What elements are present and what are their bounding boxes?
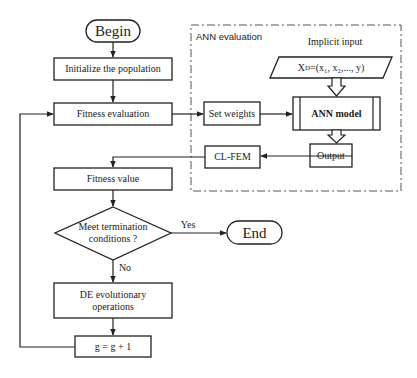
set-weights-label: Set weights xyxy=(204,102,260,125)
end-label: End xyxy=(227,221,282,244)
init-label: Initialize the population xyxy=(54,58,172,80)
input-x: X xyxy=(298,62,305,74)
block-arrow-input xyxy=(328,78,345,96)
de-ops-line1: DE evolutionary xyxy=(80,289,146,301)
fitness-eval-label: Fitness evaluation xyxy=(54,103,172,125)
output-label: Output xyxy=(310,144,352,167)
yes-label: Yes xyxy=(176,219,200,231)
ann-group-label: ANN evaluation xyxy=(196,30,276,44)
block-arrow-output xyxy=(328,130,345,143)
clfem-label: CL-FEM xyxy=(205,146,260,168)
input-data-label: XD=(x₁, x₂,..., y) xyxy=(275,57,387,78)
de-ops-label: DE evolutionary operations xyxy=(54,283,172,318)
decision-label: Meet termination conditions ? xyxy=(63,220,163,246)
input-rest: =(x₁, x₂,..., y) xyxy=(310,62,364,74)
decision-line1: Meet termination xyxy=(78,221,147,233)
decision-line2: conditions ? xyxy=(89,233,138,245)
no-label: No xyxy=(116,262,134,274)
de-ops-line2: operations xyxy=(92,301,134,313)
increment-label: g = g + 1 xyxy=(75,336,151,357)
implicit-input-label: Implicit input xyxy=(290,35,380,49)
fitness-value-label: Fitness value xyxy=(54,168,172,190)
ann-model-label: ANN model xyxy=(300,97,373,130)
begin-label: Begin xyxy=(86,20,140,42)
